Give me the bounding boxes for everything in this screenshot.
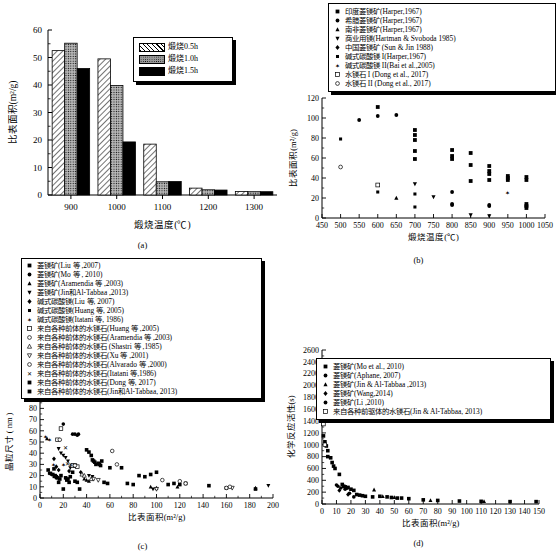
- svg-text:400: 400: [307, 476, 319, 485]
- svg-text:0: 0: [38, 501, 42, 510]
- svg-text:比表面积(m²/g): 比表面积(m²/g): [288, 129, 298, 187]
- legend-label: 碱式碳酸镁(Liu 等, 2007): [37, 298, 115, 306]
- svg-text:40: 40: [83, 501, 91, 510]
- svg-text:20: 20: [347, 507, 355, 516]
- legend-label: 菱镁矿(Jin和Al-Tabbaa ,2013): [37, 289, 128, 297]
- panel-d-legend: 菱镁矿(Mo et al., 2010)菱镁矿(Aphane, 2007)菱镁矿…: [316, 358, 551, 420]
- legend-item: 菱镁矿(Jin & Al-Tabbaa ,2013): [321, 380, 546, 389]
- legend-item: 商业用镁(Hartman & Svoboda 1985): [333, 34, 551, 43]
- svg-text:750: 750: [428, 221, 440, 230]
- svg-text:130: 130: [504, 507, 516, 516]
- tri-dn-marker-icon: [333, 34, 342, 43]
- svg-text:70: 70: [29, 415, 37, 424]
- bar: [235, 191, 248, 195]
- legend-label: 菱镁矿(Jin & Al-Tabbaa ,2013): [333, 381, 426, 389]
- legend-item: 煅烧1.0h: [139, 55, 227, 64]
- svg-text:200: 200: [267, 501, 279, 510]
- tri-up-marker-icon: [25, 279, 34, 288]
- panel-c: 0102030405060708090100020406080100120140…: [0, 258, 285, 558]
- svg-text:20: 20: [59, 501, 67, 510]
- bar: [65, 43, 78, 195]
- legend-label: 菱镁矿(Aramendia 等 ,2003): [37, 280, 123, 288]
- panel-a-caption: (a): [0, 240, 285, 250]
- svg-text:800: 800: [446, 221, 458, 230]
- data-points: ✶✶✶✶✕✕✕: [43, 422, 270, 491]
- svg-text:10: 10: [29, 483, 37, 492]
- solid-swatch-icon: [139, 67, 165, 76]
- svg-text:60: 60: [106, 501, 114, 510]
- circ-f-marker-icon: [333, 16, 342, 25]
- svg-text:晶粒尺寸 ( nm ): 晶粒尺寸 ( nm ): [4, 412, 14, 471]
- panel-a-legend: 煅烧0.5h 煅烧1.0h 煅烧1.5h: [133, 37, 233, 82]
- legend-label: 菱镁矿(Wang,2014): [333, 390, 393, 398]
- legend-label: 中国菱镁矿 (Sun & Jin 1988): [345, 44, 433, 52]
- bar: [248, 192, 261, 195]
- svg-text:1000: 1000: [303, 441, 319, 450]
- sq-o-marker-icon: [333, 70, 342, 79]
- legend-label: 来自各种前体的水镁石(Aramendia 等 ,2003): [37, 334, 172, 342]
- svg-text:30: 30: [29, 460, 37, 469]
- svg-text:850: 850: [465, 221, 477, 230]
- bar: [144, 144, 157, 195]
- svg-text:0: 0: [33, 494, 37, 503]
- svg-text:1200: 1200: [199, 202, 218, 212]
- svg-text:✶: ✶: [51, 461, 56, 468]
- svg-text:✕: ✕: [68, 462, 73, 468]
- legend-label: 碱式碳酸镁(Itatani 等, 1986): [37, 316, 123, 324]
- svg-text:40: 40: [33, 80, 43, 90]
- legend-item: 水镁石 I (Dong et al., 2017): [333, 70, 551, 79]
- legend-label: 来自各种前体的水镁石(Alvarado 等 ,2000): [37, 361, 167, 369]
- sq-f-marker-icon: [25, 387, 34, 396]
- legend-item: ✶碱式碳酸镁 II(Bai et al.,2005): [333, 61, 551, 70]
- legend-label: 来自各种前体的水镁石(Jin和Al-Tabbaa, 2013): [37, 388, 177, 396]
- svg-text:120: 120: [307, 94, 319, 103]
- svg-text:950: 950: [502, 221, 514, 230]
- bar: [190, 188, 203, 195]
- legend-label: 菱镁矿(Liu 等 ,2007): [37, 262, 101, 270]
- legend-item: 菱镁矿(Wang,2014): [321, 389, 546, 398]
- svg-text:100: 100: [151, 501, 163, 510]
- diam-f-marker-icon: [25, 297, 34, 306]
- legend-label: 煅烧1.5h: [168, 67, 198, 75]
- circ-f-marker-icon: [321, 398, 330, 407]
- panel-b-legend: 印度菱镁矿(Harper,1967)希腊菱镁矿(Harper,1967)南非菱镁…: [328, 3, 556, 92]
- legend-label: 碱式碳酸镁(Huang 等, 2005): [37, 307, 124, 315]
- svg-text:1100: 1100: [154, 202, 172, 212]
- circ-f-marker-icon: [25, 270, 34, 279]
- svg-text:450: 450: [316, 221, 328, 230]
- legend-item: 水镁石 II (Dong et al., 2017): [333, 79, 551, 88]
- legend-label: 碱式碳酸镁 II(Bai et al.,2005): [345, 62, 435, 70]
- legend-label: 菱镁矿(Li ,2010): [333, 399, 384, 407]
- svg-text:1300: 1300: [245, 202, 264, 212]
- legend-label: 印度菱镁矿(Harper,1967): [345, 8, 422, 16]
- svg-text:2600: 2600: [303, 346, 319, 355]
- svg-text:80: 80: [29, 404, 37, 413]
- sq-f-marker-icon: [333, 7, 342, 16]
- svg-text:500: 500: [335, 221, 347, 230]
- svg-text:30: 30: [361, 507, 369, 516]
- svg-text:900: 900: [64, 202, 78, 212]
- bar: [98, 59, 111, 195]
- sq-o-marker-icon: [321, 407, 330, 416]
- svg-text:✶: ✶: [27, 316, 32, 323]
- legend-label: 水镁石 I (Dong et al., 2017): [345, 71, 428, 79]
- legend-label: 来自各种前体的水镁石(Itatani 等,1986): [37, 370, 156, 378]
- dots-swatch-icon: [139, 55, 165, 64]
- legend-label: 来自各种前体的水镁石 (Shastri 等 ,1985): [37, 343, 162, 351]
- svg-text:60: 60: [29, 427, 37, 436]
- panel-a: 01020304050609001000110012001300比表面积(m²/…: [0, 0, 285, 258]
- svg-text:60: 60: [311, 154, 319, 163]
- sq-sm-marker-icon: [333, 52, 342, 61]
- svg-text:160: 160: [220, 501, 232, 510]
- svg-text:900: 900: [483, 221, 495, 230]
- bar: [52, 51, 65, 195]
- legend-label: 来自各种前体的水镁石(Xu 等 ,2001): [37, 352, 148, 360]
- hatch-swatch-icon: [139, 43, 165, 52]
- legend-item: 来自各种前体的水镁石(Aramendia 等 ,2003): [25, 333, 258, 342]
- tri-dn-marker-icon: [25, 288, 34, 297]
- svg-text:煅烧温度(℃): 煅烧温度(℃): [134, 219, 190, 231]
- circ-o-marker-icon: [333, 79, 342, 88]
- svg-text:比表面积(m²/g): 比表面积(m²/g): [128, 512, 186, 522]
- svg-text:90: 90: [448, 507, 456, 516]
- svg-text:550: 550: [353, 221, 365, 230]
